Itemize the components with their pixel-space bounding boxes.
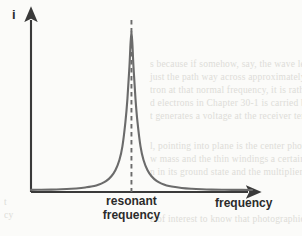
resonant-frequency-label-line1: resonant <box>71 194 191 208</box>
y-axis-label: i <box>12 7 16 22</box>
x-axis-label: frequency <box>215 196 272 210</box>
resonant-frequency-label: resonant frequency <box>71 194 191 222</box>
resonance-curve-figure: s because if somehow, say, the wave leng… <box>0 0 302 236</box>
resonant-frequency-label-line2: frequency <box>71 208 191 222</box>
resonance-curve-path <box>31 31 252 190</box>
